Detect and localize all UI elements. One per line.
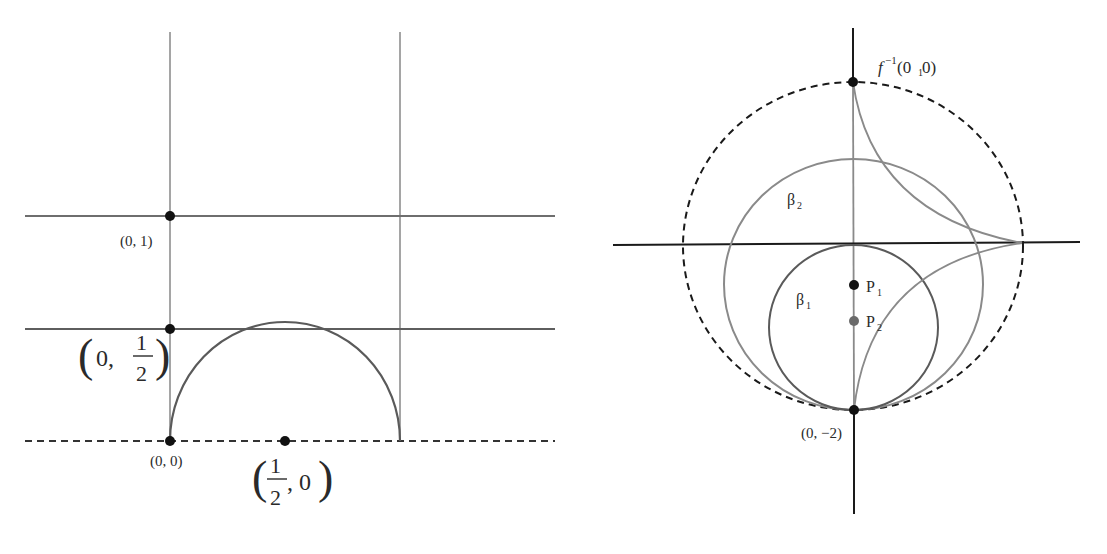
- label-rest: , 0: [287, 469, 311, 495]
- label-0-1: (0, 1): [120, 233, 153, 250]
- semicircle-geodesic: [170, 322, 400, 441]
- paren-close: ): [318, 452, 333, 503]
- svg-text:2: 2: [877, 322, 882, 333]
- left-figure: (0, 1) ( 0, 1 2 ) (0, 0) ( 1 2 , 0 ): [25, 32, 555, 510]
- point-half-0: [280, 436, 290, 446]
- paren-open: (: [252, 452, 267, 503]
- paren-close: ): [155, 330, 170, 381]
- svg-text:f: f: [878, 58, 885, 77]
- point-origin: [165, 436, 175, 446]
- label-0-minus2: (0, −2): [801, 425, 842, 442]
- svg-text:(0: (0: [897, 58, 911, 77]
- right-figure: f −1 (0 1 0) (0, −2) β 2 β 1 P 1 P 2: [613, 28, 1080, 514]
- label-f-inverse: f −1 (0 1 0): [878, 54, 936, 78]
- label-0-half: ( 0, 1 2 ): [78, 330, 170, 386]
- frac-denominator: 2: [136, 361, 147, 386]
- svg-text:P: P: [866, 278, 875, 295]
- label-zero: 0,: [96, 345, 114, 371]
- label-beta1: β 1: [796, 291, 811, 311]
- point-p2: [849, 316, 859, 326]
- label-origin: (0, 0): [150, 453, 183, 470]
- svg-text:β: β: [787, 191, 795, 209]
- point-0-minus2: [849, 405, 859, 415]
- point-0-1: [165, 211, 175, 221]
- frac-numerator: 1: [136, 330, 147, 355]
- point-p1: [849, 280, 859, 290]
- frac-denominator: 2: [270, 485, 281, 510]
- paren-open: (: [78, 330, 93, 381]
- diagram-canvas: (0, 1) ( 0, 1 2 ) (0, 0) ( 1 2 , 0 ): [0, 0, 1107, 554]
- label-beta2: β 2: [787, 191, 802, 211]
- point-f-inverse-origin: [848, 77, 858, 87]
- frac-numerator: 1: [270, 453, 281, 478]
- svg-text:0): 0): [922, 58, 936, 77]
- svg-text:2: 2: [797, 200, 802, 211]
- svg-text:β: β: [796, 291, 804, 309]
- label-half-0: ( 1 2 , 0 ): [252, 452, 333, 510]
- geodesic-curve-upper: [853, 82, 1022, 243]
- svg-text:−1: −1: [885, 54, 897, 66]
- label-p1: P 1: [866, 278, 882, 298]
- svg-text:P: P: [866, 313, 875, 330]
- svg-text:1: 1: [806, 300, 811, 311]
- svg-text:1: 1: [877, 287, 882, 298]
- label-p2: P 2: [866, 313, 882, 333]
